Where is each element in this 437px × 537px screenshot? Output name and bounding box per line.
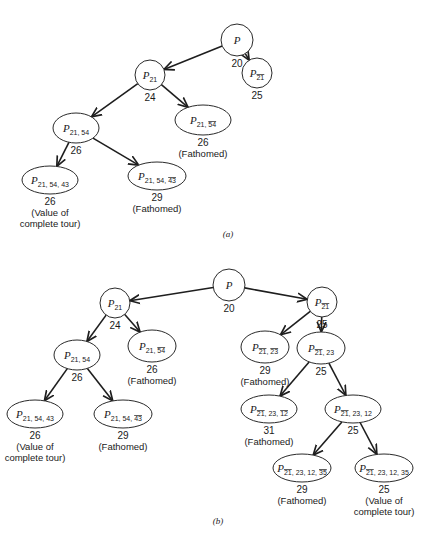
lower-bound-value: 25 xyxy=(251,90,263,101)
included-arc: 54 xyxy=(49,181,57,188)
branch-arrow xyxy=(161,85,188,108)
branch-arrow xyxy=(92,84,138,117)
excluded-arc: 21 xyxy=(257,410,265,417)
included-arc: 12 xyxy=(364,410,372,417)
included-arc: 23 xyxy=(352,410,360,417)
excluded-arc: 54 xyxy=(157,347,165,354)
branch-arrow xyxy=(93,138,139,165)
node-ellipse xyxy=(53,113,99,143)
excluded-arc: 21 xyxy=(284,469,292,476)
node-note: (Value of xyxy=(16,441,54,452)
branch-arrow xyxy=(245,54,249,61)
subproblem-node: P2124 xyxy=(100,288,130,331)
node-note: (Fathomed) xyxy=(240,376,289,387)
node-note: complete tour) xyxy=(5,452,66,463)
node-note: (Fathomed) xyxy=(277,495,326,506)
excluded-arc: 21 xyxy=(321,303,329,310)
subproblem-node: P21, 23, 12, 3525(Value ofcomplete tour) xyxy=(354,454,415,517)
excluded-arc: 12 xyxy=(280,410,288,417)
included-arc: 21 xyxy=(38,181,46,188)
included-arc: 54 xyxy=(34,415,42,422)
excluded-arc: 43 xyxy=(168,177,176,184)
included-arc: 54 xyxy=(81,129,89,136)
lower-bound-value: 25 xyxy=(315,366,327,377)
included-arc: 12 xyxy=(389,469,397,476)
included-arc: 12 xyxy=(307,469,315,476)
excluded-arc: 35 xyxy=(319,469,327,476)
caption-a: (a) xyxy=(223,229,234,239)
lower-bound-value: 29 xyxy=(296,484,308,495)
subproblem-node: P21, 2325 xyxy=(297,332,345,377)
subproblem-node: P21, 2329(Fathomed) xyxy=(240,331,289,387)
node-note: complete tour) xyxy=(354,506,415,517)
node-label-base: P xyxy=(225,279,233,291)
lower-bound-value: 25 xyxy=(347,425,359,436)
node-ellipse xyxy=(241,331,289,363)
included-arc: 23 xyxy=(378,469,386,476)
excluded-arc: 23 xyxy=(270,348,278,355)
node-circle xyxy=(307,287,337,317)
included-arc: 21 xyxy=(114,304,122,311)
branch-arrow xyxy=(125,314,140,332)
node-note: (Fathomed) xyxy=(244,436,293,447)
included-arc: 21 xyxy=(23,415,31,422)
included-arc: 43 xyxy=(46,415,54,422)
included-arc: 54 xyxy=(156,177,164,184)
node-circle xyxy=(242,58,272,88)
excluded-arc: 54 xyxy=(208,121,216,128)
node-note: (Fathomed) xyxy=(98,441,147,452)
included-arc: 35 xyxy=(401,469,409,476)
excluded-arc: 21 xyxy=(315,349,323,356)
subproblem-node: P21, 54, 4326(Value ofcomplete tour) xyxy=(5,400,66,463)
lower-bound-value: 29 xyxy=(117,430,129,441)
subproblem-node: P21, 23, 1231(Fathomed) xyxy=(241,395,297,447)
included-arc: 54 xyxy=(82,356,90,363)
branch-arrow xyxy=(281,311,311,335)
included-arc: 21 xyxy=(146,347,154,354)
branch-arrow xyxy=(44,369,67,401)
subproblem-node: P21, 54, 4329(Fathomed) xyxy=(94,400,152,452)
subproblem-node: P21, 23, 1225 xyxy=(325,395,381,436)
node-note: (Value of xyxy=(31,207,69,218)
included-arc: 23 xyxy=(326,349,334,356)
branch-arrow xyxy=(313,422,342,455)
lower-bound-value: 26 xyxy=(197,137,209,148)
branch-arrow xyxy=(87,315,106,341)
lower-bound-value: 29 xyxy=(151,192,163,203)
excluded-arc: 43 xyxy=(134,415,142,422)
node-ellipse xyxy=(297,332,345,364)
lower-bound-value: 31 xyxy=(263,425,275,436)
included-arc: 23 xyxy=(268,410,276,417)
lower-bound-value: 24 xyxy=(144,92,156,103)
subproblem-node: P2125 xyxy=(242,58,272,101)
subproblem-node: P21, 5426 xyxy=(53,113,99,156)
branch-arrow xyxy=(87,368,112,401)
included-arc: 43 xyxy=(61,181,69,188)
subproblem-node: P21, 54, 4326(Value ofcomplete tour) xyxy=(20,166,81,229)
included-arc: 21 xyxy=(71,356,79,363)
subproblem-node: P21, 5426(Fathomed) xyxy=(175,105,231,159)
lower-bound-value: 24 xyxy=(109,320,121,331)
included-arc: 21 xyxy=(70,129,78,136)
caption-b: (b) xyxy=(213,516,224,526)
excluded-arc: 21 xyxy=(256,74,264,81)
branch-arrow xyxy=(245,288,308,299)
node-circle xyxy=(135,60,165,90)
node-ellipse xyxy=(54,340,100,370)
subproblem-node: P2124 xyxy=(135,60,165,103)
included-arc: 21 xyxy=(197,121,205,128)
excluded-arc: 21 xyxy=(259,348,267,355)
subproblem-node: P21, 23, 12, 3529(Fathomed) xyxy=(273,454,331,506)
included-arc: 54 xyxy=(122,415,130,422)
node-note: (Fathomed) xyxy=(127,375,176,386)
branch-arrow xyxy=(130,288,213,301)
node-label: P xyxy=(225,279,233,291)
lower-bound-value: 20 xyxy=(231,58,243,69)
node-ellipse xyxy=(128,330,176,362)
included-arc: 23 xyxy=(296,469,304,476)
node-ellipse xyxy=(94,400,152,428)
excluded-arc: 21 xyxy=(341,410,349,417)
lower-bound-value: 26 xyxy=(44,196,56,207)
node-note: (Fathomed) xyxy=(132,203,181,214)
branch-arrow xyxy=(360,423,377,455)
